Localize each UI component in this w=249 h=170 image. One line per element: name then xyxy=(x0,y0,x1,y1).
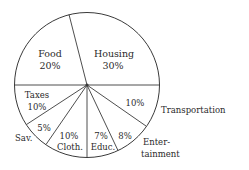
label-taxes-pct: 10% xyxy=(28,102,47,112)
label-entertainment-name-line1: Enter- xyxy=(143,137,170,147)
label-housing-name: Housing xyxy=(94,48,134,59)
label-savings-pct: 5% xyxy=(37,123,51,133)
label-food-name: Food xyxy=(38,48,62,59)
label-entertainment-name-line2: tainment xyxy=(141,149,180,159)
label-savings-name: Sav. xyxy=(15,133,32,143)
pie-center-dot xyxy=(85,83,88,86)
pie-chart-svg: Food 20% Housing 30% Taxes 10% 10% Trans… xyxy=(0,0,249,170)
label-education-pct: 7% xyxy=(94,131,108,141)
label-transportation-pct: 10% xyxy=(126,98,145,108)
label-transportation-name: Transportation xyxy=(161,105,226,115)
label-food-pct: 20% xyxy=(39,60,60,71)
label-clothing-name: Cloth. xyxy=(57,142,83,152)
pie-chart: Food 20% Housing 30% Taxes 10% 10% Trans… xyxy=(0,0,249,170)
label-taxes-name: Taxes xyxy=(25,90,49,100)
label-entertainment-pct: 8% xyxy=(118,131,132,141)
label-clothing-pct: 10% xyxy=(60,131,79,141)
label-housing-pct: 30% xyxy=(102,60,123,71)
label-education-name: Educ. xyxy=(91,142,116,152)
